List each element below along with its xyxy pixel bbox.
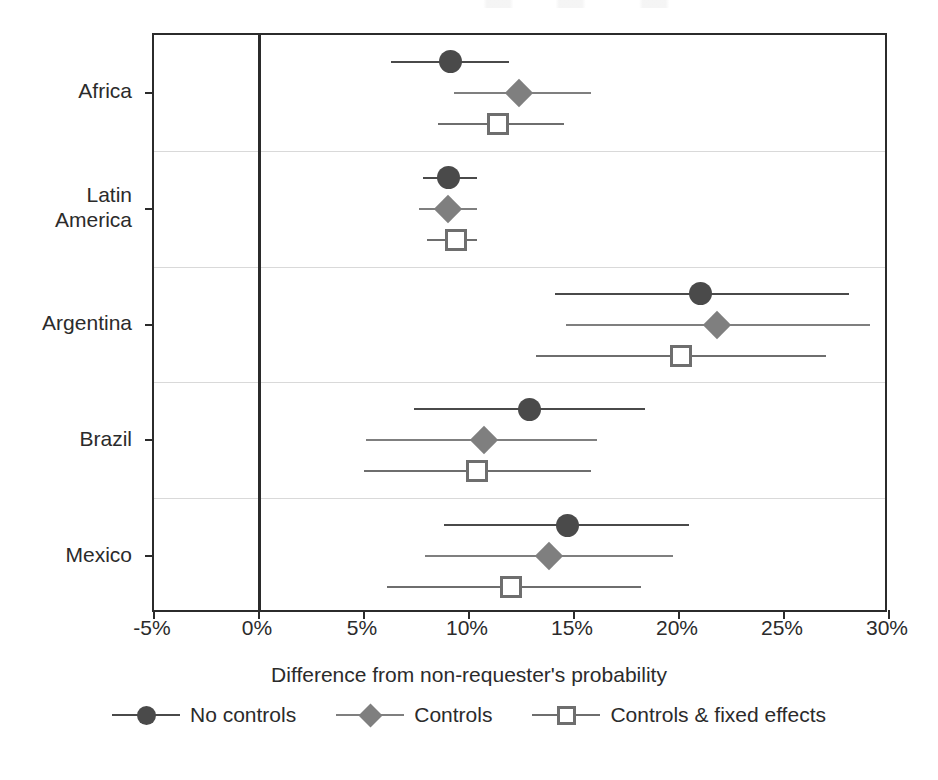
data-point-marker <box>437 166 460 189</box>
legend-label: Controls <box>414 703 492 727</box>
y-axis-category-label: Mexico <box>0 542 132 567</box>
data-point-marker <box>556 514 579 537</box>
data-point-marker <box>439 50 462 73</box>
y-axis-tick <box>145 439 154 441</box>
x-axis-tick-label: 5% <box>317 616 407 640</box>
legend-item-square-open[interactable]: Controls & fixed effects <box>532 703 826 727</box>
coefficient-plot-figure: AfricaLatin AmericaArgentinaBrazilMexico… <box>0 0 938 780</box>
category-gridline <box>154 151 885 152</box>
data-point-marker <box>466 460 488 482</box>
data-point-marker <box>518 398 541 421</box>
y-axis-category-label: Argentina <box>0 310 132 335</box>
x-axis-tick-label: 20% <box>632 616 722 640</box>
data-point-marker <box>434 195 462 223</box>
legend-label: No controls <box>190 703 296 727</box>
x-axis-tick-label: 15% <box>527 616 617 640</box>
legend-item-circle[interactable]: No controls <box>112 703 296 727</box>
legend-item-diamond[interactable]: Controls <box>336 703 492 727</box>
data-point-marker <box>703 310 731 338</box>
legend-marker-icon <box>112 704 180 726</box>
category-gridline <box>154 267 885 268</box>
data-point-marker <box>670 345 692 367</box>
data-point-marker <box>500 576 522 598</box>
y-axis-tick <box>145 92 154 94</box>
legend-label: Controls & fixed effects <box>610 703 826 727</box>
y-axis-category-label: Brazil <box>0 426 132 451</box>
y-axis-category-label: Latin America <box>0 182 132 232</box>
x-axis-title: Difference from non-requester's probabil… <box>0 663 938 687</box>
y-axis-category-label: Africa <box>0 78 132 103</box>
data-point-marker <box>505 79 533 107</box>
data-point-marker <box>535 542 563 570</box>
cropped-title-sliver <box>430 0 810 8</box>
y-axis-tick <box>145 324 154 326</box>
zero-reference-line <box>258 35 261 610</box>
x-axis-tick-label: -5% <box>107 616 197 640</box>
data-point-marker <box>470 426 498 454</box>
legend-marker-icon <box>532 704 600 726</box>
x-axis-tick-label: 0% <box>212 616 302 640</box>
chart-legend: No controlsControlsControls & fixed effe… <box>0 703 938 727</box>
category-gridline <box>154 498 885 499</box>
category-gridline <box>154 382 885 383</box>
y-axis-tick <box>145 208 154 210</box>
data-point-marker <box>445 229 467 251</box>
x-axis-tick-label: 25% <box>737 616 827 640</box>
x-axis-tick-label: 10% <box>422 616 512 640</box>
y-axis-tick <box>145 555 154 557</box>
data-point-marker <box>689 282 712 305</box>
legend-marker-icon <box>336 704 404 726</box>
x-axis-tick-label: 30% <box>842 616 932 640</box>
data-point-marker <box>487 113 509 135</box>
plot-area <box>152 33 887 612</box>
